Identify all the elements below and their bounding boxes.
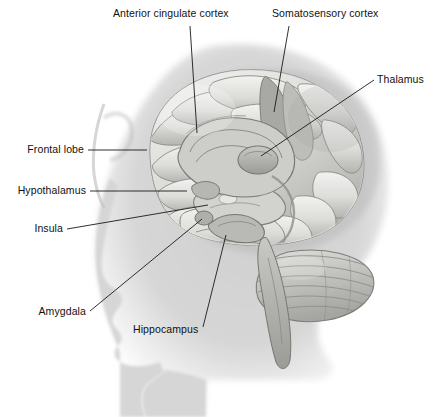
label-hypothalamus: Hypothalamus	[0, 185, 86, 196]
label-frontal-lobe: Frontal lobe	[0, 144, 84, 155]
label-anterior-cingulate-cortex: Anterior cingulate cortex	[113, 8, 229, 19]
label-amygdala: Amygdala	[0, 306, 86, 317]
label-thalamus: Thalamus	[377, 74, 424, 85]
label-insula: Insula	[0, 223, 63, 234]
brain-anatomy-diagram: Anterior cingulate cortex Somatosensory …	[0, 0, 434, 417]
thalamus-region	[238, 146, 278, 174]
label-somatosensory-cortex: Somatosensory cortex	[272, 8, 378, 19]
label-hippocampus: Hippocampus	[133, 324, 198, 335]
brain-illustration-svg	[0, 0, 434, 417]
